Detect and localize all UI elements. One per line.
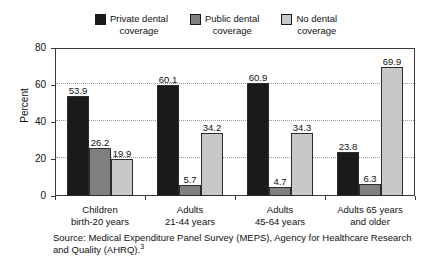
legend-swatch-icon [190, 14, 201, 25]
bar-value-label: 60.1 [159, 75, 178, 85]
x-category-label: Adults 21-44 years [145, 204, 235, 227]
x-tick-mark [325, 196, 326, 200]
y-tick-label: 0 [0, 191, 46, 201]
bar-group: 60.94.734.3 [247, 48, 313, 196]
bar[interactable]: 34.2 [201, 133, 223, 196]
legend-label: Public dental coverage [205, 13, 259, 36]
bar-value-label: 26.2 [91, 138, 110, 148]
x-tick-mark [415, 196, 416, 200]
dental-coverage-bar-chart: Private dental coveragePublic dental cov… [0, 0, 432, 261]
bar-value-label: 5.7 [183, 175, 196, 185]
bar[interactable]: 60.1 [157, 85, 179, 196]
bar-value-label: 19.9 [113, 149, 132, 159]
bar[interactable]: 5.7 [179, 185, 201, 196]
x-category-label: Adults 65 years and older [325, 204, 415, 227]
y-tick-label: 20 [0, 154, 46, 164]
x-tick-mark [235, 196, 236, 200]
x-category-label: Children birth-20 years [55, 204, 145, 227]
bar-groups: 53.926.219.960.15.734.260.94.734.323.86.… [55, 48, 415, 196]
legend-entry[interactable]: No dental coverage [281, 13, 337, 36]
y-axis-title: Percent [19, 76, 30, 136]
y-tick-label: 80 [0, 43, 46, 53]
bar[interactable]: 53.9 [67, 96, 89, 196]
bar[interactable]: 4.7 [269, 187, 291, 196]
x-axis: Children birth-20 yearsAdults 21-44 year… [55, 200, 415, 226]
bar-value-label: 60.9 [249, 73, 268, 83]
bar-group: 23.86.369.9 [337, 48, 403, 196]
source-note: Source: Medical Expenditure Panel Survey… [53, 232, 427, 256]
bar-value-label: 53.9 [69, 86, 88, 96]
legend-entry[interactable]: Public dental coverage [190, 13, 259, 36]
bar-value-label: 4.7 [273, 177, 286, 187]
source-footnote-marker: 3 [140, 243, 144, 250]
legend-label: No dental coverage [296, 13, 337, 36]
bar[interactable]: 69.9 [381, 67, 403, 196]
bar[interactable]: 26.2 [89, 148, 111, 196]
bar[interactable]: 60.9 [247, 83, 269, 196]
bar-value-label: 34.2 [203, 123, 222, 133]
legend-swatch-icon [281, 14, 292, 25]
x-tick-mark [55, 196, 56, 200]
bar[interactable]: 34.3 [291, 133, 313, 196]
x-tick-mark [145, 196, 146, 200]
chart-legend: Private dental coveragePublic dental cov… [0, 13, 432, 36]
bar-value-label: 23.8 [339, 142, 358, 152]
bar[interactable]: 6.3 [359, 184, 381, 196]
bar[interactable]: 19.9 [111, 159, 133, 196]
bar-value-label: 6.3 [363, 174, 376, 184]
bar-group: 60.15.734.2 [157, 48, 223, 196]
bar-group: 53.926.219.9 [67, 48, 133, 196]
legend-entry[interactable]: Private dental coverage [95, 13, 168, 36]
bar-value-label: 34.3 [293, 123, 312, 133]
legend-label: Private dental coverage [110, 13, 168, 36]
bar[interactable]: 23.8 [337, 152, 359, 196]
legend-swatch-icon [95, 14, 106, 25]
bar-value-label: 69.9 [383, 57, 402, 67]
x-category-label: Adults 45-64 years [235, 204, 325, 227]
